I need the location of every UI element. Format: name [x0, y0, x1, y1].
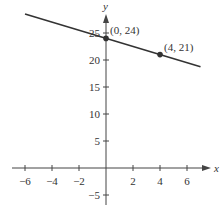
y-axis-label: y — [102, 0, 108, 12]
data-point-label: (4, 21) — [164, 41, 194, 54]
x-axis-label: x — [213, 162, 219, 174]
y-tick-label: 5 — [95, 135, 101, 147]
x-axis-arrow-icon — [202, 165, 211, 171]
data-point-label: (0, 24) — [110, 24, 140, 37]
data-point — [103, 36, 109, 42]
y-tick-label: 10 — [89, 108, 101, 120]
data-point — [157, 52, 163, 58]
x-tick-label: −6 — [19, 175, 31, 187]
x-tick-label: 4 — [157, 175, 163, 187]
chart: xy −6−4−2246−5510152025 (0, 24)(4, 21) — [0, 0, 222, 216]
y-axis-arrow-icon — [103, 14, 109, 23]
x-tick-label: −4 — [46, 175, 58, 187]
x-tick-label: 2 — [130, 175, 136, 187]
ticks: −6−4−2246−5510152025 — [19, 27, 190, 201]
x-tick-label: −2 — [73, 175, 85, 187]
y-tick-label: 15 — [89, 81, 101, 93]
y-tick-label: −5 — [88, 189, 100, 201]
x-tick-label: 6 — [184, 175, 190, 187]
y-tick-label: 20 — [89, 54, 101, 66]
